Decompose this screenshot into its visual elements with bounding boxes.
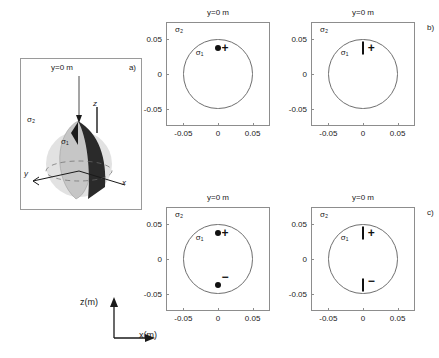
plot-title: y=0 m — [166, 8, 270, 17]
axes-indicator: z(m) x(m) — [92, 288, 182, 348]
sigma1-label: σ₁ — [196, 233, 204, 242]
y-axis-tick-mark — [311, 294, 314, 295]
x-axis-tick-mark — [328, 123, 329, 126]
x-axis-tick-label: -0.05 — [319, 314, 337, 323]
y-axis-tick-mark — [166, 74, 169, 75]
x-axis-tick-mark — [398, 123, 399, 126]
source-bar-marker — [362, 226, 364, 239]
plot-title: y=0 m — [166, 193, 270, 202]
x-axis-tick-label: 0.05 — [245, 129, 261, 138]
sigma2-label: σ₂ — [320, 210, 328, 219]
y-axis-tick-mark — [311, 39, 314, 40]
x-axis-tick-mark — [183, 123, 184, 126]
panel-a-sigma1-label: σ₁ — [61, 137, 69, 146]
plot-tag: b) — [427, 23, 434, 32]
y-axis-tick-label: -0.05 — [289, 104, 307, 113]
x-axis-tick-mark — [218, 308, 219, 311]
axes-indicator-x-label: x(m) — [139, 330, 157, 340]
plot-tag: c) — [427, 208, 434, 217]
y-axis-tick-label: 0.05 — [146, 220, 162, 229]
y-axis-tick-label: 0.05 — [291, 220, 307, 229]
y-axis-tick-label: -0.05 — [144, 104, 162, 113]
source-dot-marker — [215, 45, 221, 51]
x-axis-tick-mark — [363, 123, 364, 126]
sigma1-label: σ₁ — [341, 233, 349, 242]
x-axis-tick-label: 0 — [361, 129, 365, 138]
figure-root: y=0 m a) σ₂ σ₁ z x y — [0, 0, 439, 358]
x-axis-tick-label: 0 — [361, 314, 365, 323]
y-axis-tick-label: 0 — [158, 255, 162, 264]
x-axis-tick-label: 0.05 — [245, 314, 261, 323]
x-axis-tick-mark — [218, 123, 219, 126]
x-axis-tick-mark — [363, 308, 364, 311]
panel-a-x-axis-label: x — [122, 178, 126, 187]
polarity-sign-plus: + — [368, 42, 375, 54]
y-axis-tick-mark — [166, 39, 169, 40]
sigma2-label: σ₂ — [175, 210, 183, 219]
polarity-sign-plus: + — [368, 227, 375, 239]
y-axis-tick-label: -0.05 — [289, 289, 307, 298]
axes-indicator-z-label: z(m) — [80, 297, 98, 307]
polarity-sign-plus: + — [221, 42, 228, 54]
x-axis-tick-label: 0.05 — [390, 314, 406, 323]
y-axis-tick-label: 0 — [158, 70, 162, 79]
plot-panel-top-left: y=0 m0.050-0.05-0.0500.05σ₂σ₁+ — [166, 22, 270, 126]
x-axis-tick-mark — [183, 308, 184, 311]
x-axis-tick-mark — [253, 308, 254, 311]
y-axis-tick-mark — [166, 224, 169, 225]
sigma2-label: σ₂ — [175, 25, 183, 34]
polarity-sign-minus: − — [221, 271, 228, 283]
y-axis-tick-label: 0.05 — [146, 35, 162, 44]
source-dot-marker — [215, 282, 221, 288]
x-axis-tick-label: -0.05 — [174, 129, 192, 138]
source-dot-marker — [215, 230, 221, 236]
y-axis-tick-mark — [311, 224, 314, 225]
y-axis-tick-mark — [166, 259, 169, 260]
x-axis-tick-label: -0.05 — [319, 129, 337, 138]
x-axis-tick-mark — [398, 308, 399, 311]
x-axis-tick-label: 0 — [216, 129, 220, 138]
y-axis-tick-label: 0.05 — [291, 35, 307, 44]
panel-a-3d-sketch: y=0 m a) σ₂ σ₁ z x y — [20, 58, 142, 210]
x-axis-tick-mark — [253, 123, 254, 126]
y-axis-tick-mark — [311, 74, 314, 75]
plot-title: y=0 m — [311, 8, 415, 17]
x-axis-tick-label: 0.05 — [390, 129, 406, 138]
sigma1-label: σ₁ — [196, 48, 204, 57]
plot-panel-top-right: y=0 mb)0.050-0.05-0.0500.05σ₂σ₁+ — [311, 22, 415, 126]
y-axis-tick-mark — [311, 259, 314, 260]
x-axis-tick-label: 0 — [216, 314, 220, 323]
y-axis-tick-mark — [166, 109, 169, 110]
panel-a-y-axis-label: y — [24, 169, 28, 178]
axes-indicator-arrows — [92, 288, 182, 348]
plot-title: y=0 m — [311, 193, 415, 202]
x-axis-tick-mark — [328, 308, 329, 311]
panel-a-z-axis-label: z — [93, 99, 97, 108]
sigma1-label: σ₁ — [341, 48, 349, 57]
panel-a-sigma2-label: σ₂ — [27, 115, 35, 124]
polarity-sign-minus: − — [368, 275, 375, 287]
source-bar-marker — [362, 279, 364, 292]
polarity-sign-plus: + — [221, 227, 228, 239]
source-bar-marker — [362, 41, 364, 54]
y-axis-tick-mark — [311, 109, 314, 110]
sigma2-label: σ₂ — [320, 25, 328, 34]
y-axis-tick-label: 0 — [303, 70, 307, 79]
y-axis-tick-label: 0 — [303, 255, 307, 264]
plot-panel-bottom-right: y=0 mc)0.050-0.05-0.0500.05σ₂σ₁+− — [311, 207, 415, 311]
